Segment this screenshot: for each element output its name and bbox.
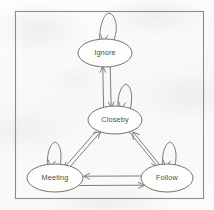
closeby-self-loop-edge — [118, 84, 132, 109]
node-closeby[interactable]: Closeby — [88, 106, 142, 134]
node-ignore-label: Ignore — [94, 48, 116, 57]
closeby-to-meeting-edge — [63, 132, 96, 169]
node-follow[interactable]: Follow — [141, 164, 193, 192]
node-meeting-label: Meeting — [41, 173, 68, 182]
follow-self-loop-edge — [162, 142, 176, 167]
closeby-to-ignore-edge — [100, 67, 106, 108]
diagram-page: Ignore Closeby Meeting Follow — [0, 0, 214, 210]
node-follow-label: Follow — [156, 173, 179, 182]
meeting-to-closeby-edge — [69, 132, 101, 169]
node-group: Ignore Closeby Meeting Follow — [27, 39, 193, 192]
state-transition-diagram: Ignore Closeby Meeting Follow — [0, 0, 214, 210]
follow-to-meeting-edge — [84, 173, 141, 179]
node-closeby-label: Closeby — [101, 115, 129, 124]
ignore-self-loop-edge — [100, 13, 117, 42]
node-meeting[interactable]: Meeting — [27, 164, 83, 192]
meeting-self-loop-edge — [47, 142, 61, 167]
meeting-to-follow-edge — [80, 182, 145, 188]
follow-to-closeby-edge — [133, 132, 162, 168]
ignore-to-closeby-edge — [108, 67, 114, 108]
node-ignore[interactable]: Ignore — [78, 39, 132, 67]
